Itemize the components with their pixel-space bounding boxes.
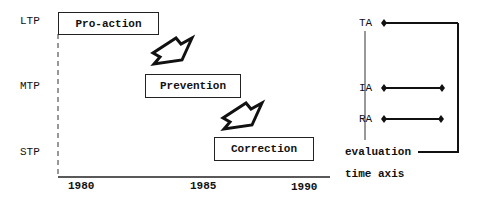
diamond-marker-icon — [381, 19, 387, 27]
legend-label-ia: IA — [359, 82, 372, 94]
legend-label-ra: RA — [359, 113, 372, 125]
tick-label-1980: 1980 — [68, 180, 94, 192]
diamond-marker-icon — [439, 84, 445, 92]
diamond-marker-icon — [381, 115, 387, 123]
diamond-marker-icon — [381, 84, 387, 92]
arrow-icon — [223, 103, 262, 129]
legend-label-time-axis: time axis — [345, 168, 404, 180]
diamond-marker-icon — [438, 115, 444, 123]
tick-label-1985: 1985 — [190, 180, 216, 192]
arrow-icon — [153, 38, 192, 64]
level-label-mtp: MTP — [20, 80, 40, 92]
proaction-box: Pro-action — [58, 12, 159, 35]
level-label-stp: STP — [20, 146, 40, 158]
level-label-ltp: LTP — [20, 15, 40, 27]
legend-label-evaluation: evaluation — [345, 146, 411, 158]
prevention-box: Prevention — [145, 74, 241, 98]
correction-box: Correction — [214, 137, 314, 161]
tick-label-1990: 1990 — [291, 181, 317, 193]
legend-label-ta: TA — [359, 17, 372, 29]
